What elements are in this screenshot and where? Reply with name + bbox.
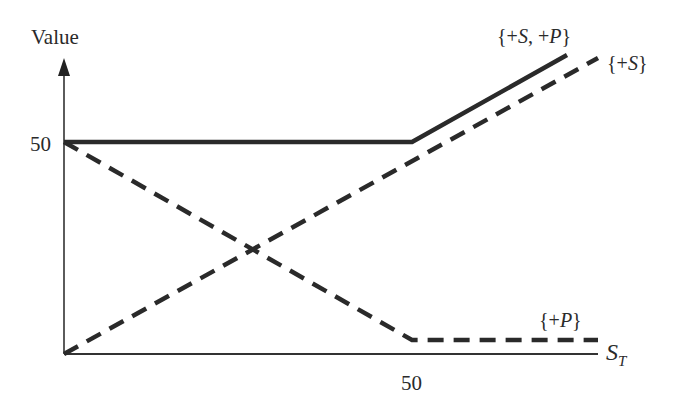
- label-brace-close: }: [572, 309, 582, 331]
- x-axis-label-main: S: [606, 339, 618, 365]
- payoff-chart: Value 50 50 ST {+S, +P} {+S} {+P}: [0, 0, 680, 410]
- label-plus-s: {+S}: [607, 52, 648, 74]
- x-tick-50: 50: [401, 371, 422, 395]
- label-p: P: [548, 25, 561, 47]
- label-plus-s-plus-p: {+S, +P}: [497, 25, 571, 47]
- label-s: S: [628, 52, 638, 74]
- label-s: S: [518, 25, 528, 47]
- label-plus-p: {+P}: [539, 309, 582, 331]
- y-tick-50: 50: [30, 132, 51, 156]
- series-plus-s-plus-p: [64, 55, 567, 142]
- x-axis-label: ST: [606, 339, 628, 369]
- label-p: P: [559, 309, 572, 331]
- label-sep: , +: [528, 25, 549, 47]
- y-axis-label: Value: [31, 25, 79, 49]
- label-brace-open: {+: [539, 309, 560, 331]
- y-axis-arrow-icon: [58, 58, 70, 76]
- x-axis-label-sub: T: [618, 353, 628, 369]
- label-brace-close: }: [638, 52, 648, 74]
- series-plus-s: [64, 58, 598, 354]
- label-brace-open: {+: [607, 52, 628, 74]
- axes: [58, 58, 598, 354]
- label-brace-open: {+: [497, 25, 518, 47]
- label-brace-close: }: [561, 25, 571, 47]
